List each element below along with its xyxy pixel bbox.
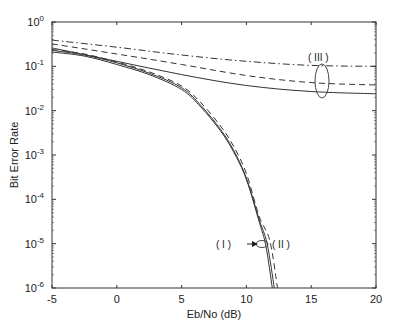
y-tick-label: 10-2 — [25, 103, 45, 117]
annotation-III: ( III ) — [308, 52, 329, 63]
x-tick-label: 20 — [370, 293, 382, 305]
data-series — [52, 40, 376, 288]
x-tick-label: 5 — [179, 293, 185, 305]
y-axis-label: Bit Error Rate — [8, 122, 20, 189]
y-tick-label: 10-6 — [25, 280, 45, 294]
y-tick-label: 10-1 — [25, 58, 45, 72]
annotation-I: ( I ) — [216, 239, 231, 250]
y-tick-label: 10-5 — [25, 236, 45, 250]
series-line — [52, 44, 376, 85]
x-axis-label: Eb/No (dB) — [187, 308, 241, 320]
y-tick-label: 10-4 — [25, 191, 45, 205]
marker-ellipse-III — [315, 64, 329, 98]
annotation-II: ( II ) — [272, 239, 290, 250]
x-tick-label: 15 — [305, 293, 317, 305]
x-tick-label: 10 — [240, 293, 252, 305]
x-tick-label: 0 — [114, 293, 120, 305]
series-line — [52, 52, 272, 288]
series-line — [52, 50, 274, 288]
x-tick-label: -5 — [47, 293, 57, 305]
y-tick-label: 100 — [27, 14, 44, 28]
y-tick-label: 10-3 — [25, 147, 45, 161]
ber-chart: -50510152010010-110-210-310-410-510-6 ( … — [0, 0, 397, 328]
